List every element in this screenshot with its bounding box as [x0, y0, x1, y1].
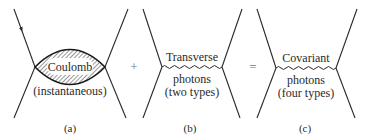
transverse-label: Transverse — [166, 50, 218, 64]
four-types-label: (four types) — [278, 86, 334, 100]
photon-propagator — [276, 67, 336, 70]
caption-c: (c) — [299, 122, 312, 135]
diagram-b: Transverse photons (two types) (b) — [143, 9, 242, 135]
coulomb-label: Coulomb — [48, 60, 93, 74]
fermion-line-lower-right — [222, 67, 240, 118]
fermion-line-upper-right — [336, 9, 357, 68]
diagram-a: Coulomb (instantaneous) (a) — [14, 9, 128, 135]
fermion-line-lower-left — [257, 68, 276, 118]
covariant-label: Covariant — [282, 51, 330, 65]
diagram-c: Covariant photons (four types) (c) — [257, 9, 357, 135]
two-types-label: (two types) — [165, 85, 219, 99]
fermion-line-upper-left — [257, 9, 276, 68]
fermion-line-upper-left — [14, 9, 35, 67]
fermion-line-lower-left — [14, 67, 35, 118]
photons-label: photons — [173, 72, 211, 86]
equals-operator: = — [249, 59, 256, 74]
instantaneous-label: (instantaneous) — [33, 84, 106, 98]
fermion-line-upper-right — [222, 9, 242, 67]
photon-propagator — [162, 66, 222, 69]
caption-a: (a) — [64, 122, 77, 135]
fermion-line-lower-left — [143, 67, 162, 118]
fermion-line-upper-left — [143, 9, 162, 67]
photons-label: photons — [287, 73, 325, 87]
fermion-line-lower-right — [336, 68, 355, 118]
caption-b: (b) — [184, 122, 197, 135]
fermion-line-lower-right — [105, 67, 126, 118]
arrow-icon — [350, 105, 352, 110]
fermion-line-upper-right — [105, 9, 128, 67]
plus-operator: + — [130, 59, 137, 74]
feynman-diagram-equation: Coulomb (instantaneous) (a) + Transverse… — [0, 0, 367, 138]
